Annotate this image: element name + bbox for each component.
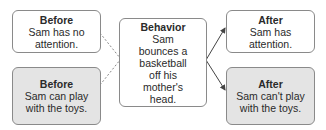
box-text: Sam has no attention.	[17, 26, 96, 50]
box-text: Sam bounces a basketball off his mother'…	[124, 33, 202, 105]
box-title: Behavior	[124, 21, 202, 33]
box-title: After	[231, 78, 310, 90]
after-box-toys: After Sam can't play with the toys.	[226, 67, 315, 125]
box-text: Sam can't play with the toys.	[231, 90, 310, 114]
behavior-box: Behavior Sam bounces a basketball off hi…	[119, 18, 207, 107]
before-box-attention: Before Sam has no attention.	[12, 10, 101, 53]
box-title: Before	[17, 14, 96, 26]
box-title: After	[231, 14, 310, 26]
dotted-connector-before-2	[100, 60, 120, 85]
box-text: Sam can play with the toys.	[17, 90, 96, 114]
box-title: Before	[17, 78, 96, 90]
arrow-to-after-1	[206, 28, 225, 60]
arrow-to-after-2	[206, 60, 225, 90]
box-text: Sam has attention.	[231, 26, 310, 50]
after-box-attention: After Sam has attention.	[226, 10, 315, 53]
dotted-connector-before-1	[100, 33, 120, 58]
before-box-toys: Before Sam can play with the toys.	[12, 67, 101, 125]
